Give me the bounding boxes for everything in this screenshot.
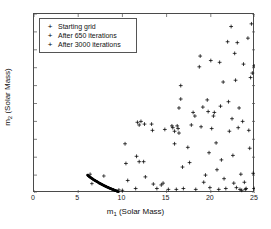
legend-item: +After 650 iterations	[42, 31, 134, 40]
x-axis-label-unit: (Solar Mass)	[117, 207, 165, 216]
x-tick-label: 10	[106, 194, 136, 201]
legend-marker-icon: +	[42, 23, 58, 31]
y-axis-label-symbol: m	[3, 119, 12, 126]
x-tick-label: 15	[151, 194, 181, 201]
x-tick-label: 20	[195, 194, 225, 201]
y-axis-label-unit: (Solar Mass)	[3, 68, 12, 116]
y-axis-label-subscript: 2	[7, 116, 13, 119]
x-axis-label: m1 (Solar Mass)	[0, 207, 271, 217]
legend-item: +After 3000 iterations	[42, 40, 134, 49]
legend-marker-icon: +	[42, 32, 58, 40]
x-tick-label: 25	[239, 194, 269, 201]
legend-item: +Starting grid	[42, 22, 134, 31]
legend-item-label: After 650 iterations	[58, 32, 117, 40]
legend-marker-icon: +	[42, 41, 58, 49]
legend: +Starting grid+After 650 iterations+Afte…	[39, 18, 137, 53]
x-tick-label: 0	[18, 194, 48, 201]
legend-item-label: Starting grid	[58, 23, 96, 31]
y-axis-label: m2 (Solar Mass)	[3, 2, 13, 192]
legend-item-label: After 3000 iterations	[58, 41, 121, 49]
scatter-figure: 4681012141618202224 0510152025 m1 (Solar…	[0, 0, 271, 229]
x-tick-label: 5	[62, 194, 92, 201]
